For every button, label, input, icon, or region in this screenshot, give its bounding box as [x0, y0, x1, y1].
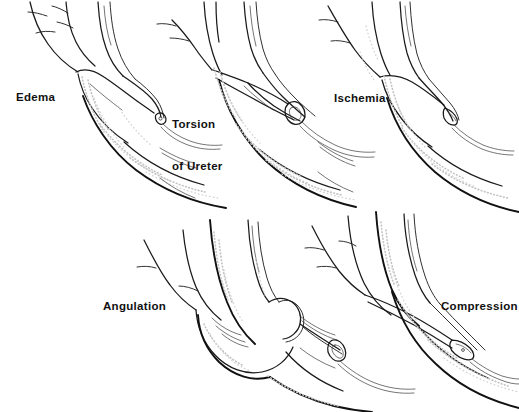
panel-label-torsion-line-1: Torsion — [172, 117, 223, 131]
panel-label-angulation: Angulation — [103, 299, 166, 313]
panel-label-torsion: Torsion of Ureter — [172, 89, 223, 201]
illustration-canvas: .ln { fill:none; stroke:#1a1a1a; stroke-… — [0, 0, 519, 412]
panel-label-compression: Compression — [441, 299, 518, 313]
panel-label-edema: Edema — [16, 90, 55, 104]
panel-label-torsion-line-2: of Ureter — [172, 159, 223, 173]
medical-illustration-figure: .ln { fill:none; stroke:#1a1a1a; stroke-… — [0, 0, 519, 412]
panel-label-ischemia: Ischemia — [334, 91, 386, 105]
